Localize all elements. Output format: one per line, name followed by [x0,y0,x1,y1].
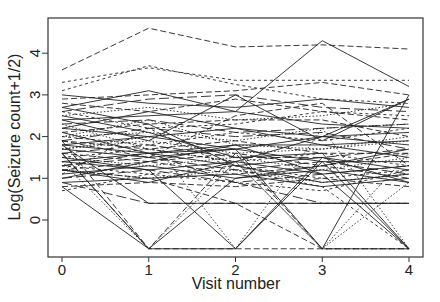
series-line-s23 [62,145,409,158]
y-tick-label: 0 [26,216,43,224]
y-axis: 01234 [26,49,48,224]
y-tick-label: 3 [26,91,43,99]
series-line-s48 [62,182,409,203]
plot-frame [48,18,423,257]
series-line-s24 [62,149,409,162]
series-line-s43 [62,128,409,249]
x-tick-label: 3 [318,261,326,278]
y-tick-label: 2 [26,132,43,140]
y-axis-label: Log(Seizure count+1/2) [6,54,23,221]
x-axis-label: Visit number [192,275,281,292]
series-line-s4 [62,82,409,99]
series-line-s2 [62,68,409,83]
x-tick-label: 0 [58,261,66,278]
series-line-s51 [62,128,409,249]
y-tick-label: 1 [26,174,43,182]
x-tick-label: 4 [405,261,413,278]
series-line-s40 [62,153,409,248]
y-tick-label: 4 [26,49,43,57]
series-line-s17 [62,128,409,149]
spaghetti-line-chart: 01234 01234 Visit number Log(Seizure cou… [0,0,440,302]
series-line-s54 [62,149,409,249]
series-line-s20 [62,141,409,154]
series-line-s34 [62,170,409,183]
series-lines [62,28,409,249]
series-line-s22 [62,145,409,158]
x-tick-label: 1 [145,261,153,278]
series-line-s46 [62,170,409,249]
series-line-s1 [62,28,409,70]
